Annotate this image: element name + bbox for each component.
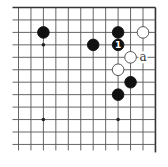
stone-circle bbox=[112, 64, 124, 76]
white-stone bbox=[125, 52, 137, 64]
white-stone bbox=[112, 64, 124, 76]
star-point bbox=[42, 43, 46, 47]
stone-circle bbox=[112, 27, 124, 39]
go-board: 1 a bbox=[0, 0, 168, 167]
move-number: 1 bbox=[115, 40, 121, 50]
board-marks: a bbox=[139, 50, 148, 64]
stone-circle bbox=[125, 52, 137, 64]
black-stone: 1 bbox=[112, 39, 124, 51]
black-stone bbox=[38, 27, 50, 39]
stone-circle bbox=[137, 27, 149, 39]
stone-circle bbox=[38, 27, 50, 39]
star-point bbox=[116, 118, 120, 122]
stone-circle bbox=[125, 76, 137, 88]
point-label: a bbox=[139, 50, 146, 64]
stone-circle bbox=[87, 39, 99, 51]
stone-circle bbox=[112, 89, 124, 101]
black-stone bbox=[87, 39, 99, 51]
black-stone bbox=[112, 27, 124, 39]
black-stone bbox=[112, 89, 124, 101]
black-stone bbox=[125, 76, 137, 88]
star-point bbox=[42, 118, 46, 122]
white-stone bbox=[137, 27, 149, 39]
